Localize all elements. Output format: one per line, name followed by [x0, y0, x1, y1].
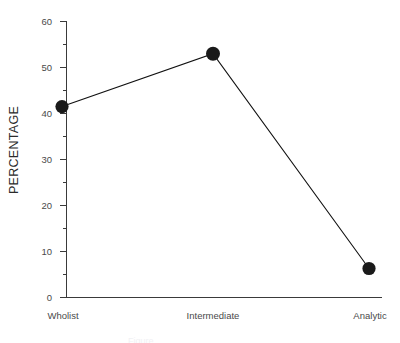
- plot-area: [0, 0, 400, 343]
- y-axis-major-ticks: [60, 22, 67, 298]
- x-tick-label-intermediate: Intermediate: [187, 310, 240, 321]
- x-tick-label-wholist: Wholist: [47, 310, 78, 321]
- y-tick-label-50: 50: [12, 63, 52, 73]
- data-point-intermediate: [206, 47, 220, 61]
- x-tick-label-analytic: Analytic: [353, 310, 386, 321]
- y-axis-title: PERCENTAGE: [7, 90, 21, 210]
- y-tick-label-60: 60: [12, 17, 52, 27]
- y-tick-label-0: 0: [12, 293, 52, 303]
- data-point-analytic: [362, 262, 375, 275]
- data-point-wholist: [55, 100, 68, 113]
- y-tick-label-10: 10: [12, 247, 52, 257]
- figure-caption-clipped: Figure: [128, 336, 288, 343]
- chart-figure: 60 50 40 30 20 10 0 Wholist Intermediate…: [0, 0, 400, 343]
- series-line-percentage: [62, 54, 369, 269]
